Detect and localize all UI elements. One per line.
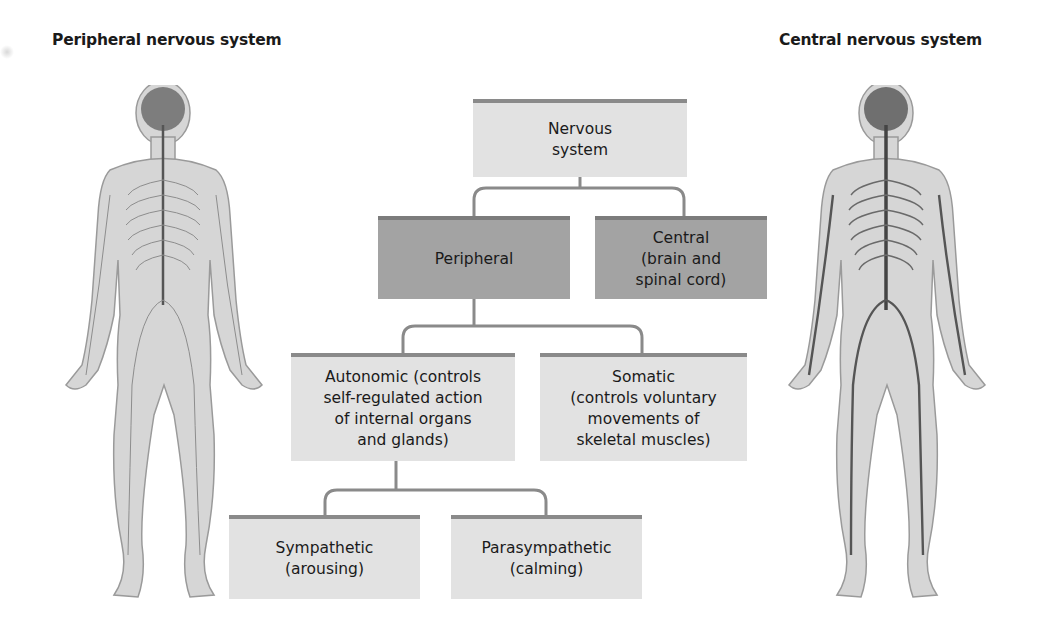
node-central: Central (brain and spinal cord) [595, 216, 767, 299]
node-peripheral: Peripheral [378, 216, 570, 299]
node-parasympathetic-label: Parasympathetic (calming) [481, 538, 611, 580]
node-sympathetic: Sympathetic (arousing) [229, 515, 420, 599]
node-nervous-system-label: Nervous system [548, 119, 612, 161]
node-autonomic: Autonomic (controls self-regulated actio… [291, 353, 515, 461]
node-sympathetic-label: Sympathetic (arousing) [276, 538, 374, 580]
node-autonomic-label: Autonomic (controls self-regulated actio… [323, 367, 482, 451]
node-peripheral-label: Peripheral [435, 249, 513, 270]
node-somatic-label: Somatic (controls voluntary movements of… [570, 367, 717, 451]
node-somatic: Somatic (controls voluntary movements of… [540, 353, 747, 461]
node-nervous-system: Nervous system [473, 99, 687, 177]
node-parasympathetic: Parasympathetic (calming) [451, 515, 642, 599]
node-central-label: Central (brain and spinal cord) [636, 228, 727, 291]
